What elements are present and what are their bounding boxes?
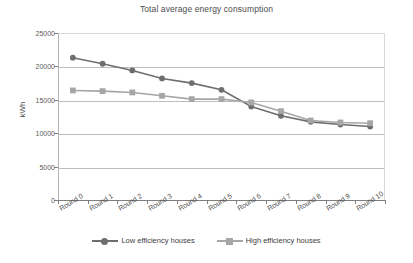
- legend-item[interactable]: High efficiency houses: [217, 236, 321, 245]
- legend-item[interactable]: Low efficiency houses: [92, 236, 194, 245]
- y-axis-tick-label: 20000: [3, 63, 55, 70]
- chart-legend: Low efficiency housesHigh efficiency hou…: [0, 236, 413, 245]
- legend-label: Low efficiency houses: [121, 236, 194, 245]
- x-axis-tick-mark: [326, 200, 327, 204]
- plot-area: [58, 33, 385, 200]
- x-axis-tick-mark: [385, 200, 386, 204]
- x-axis-tick-mark: [355, 200, 356, 204]
- legend-swatch: [217, 237, 243, 245]
- x-axis-tick-mark: [207, 200, 208, 204]
- y-axis-tick-label: 25000: [3, 30, 55, 37]
- x-axis-tick-mark: [58, 200, 59, 204]
- legend-marker-square-icon: [226, 238, 233, 245]
- x-axis-tick-mark: [296, 200, 297, 204]
- x-axis-tick-mark: [147, 200, 148, 204]
- x-axis-tick-mark: [177, 200, 178, 204]
- gridline: [59, 101, 384, 102]
- y-axis-tick-label: 10000: [3, 130, 55, 137]
- y-axis-tick-label: 0: [3, 197, 55, 204]
- legend-swatch: [92, 237, 118, 245]
- chart-title: Total average energy consumption: [0, 4, 413, 14]
- chart-container: Total average energy consumption kWh 050…: [0, 0, 413, 263]
- gridline: [59, 67, 384, 68]
- y-axis-tick-label: 15000: [3, 96, 55, 103]
- legend-label: High efficiency houses: [246, 236, 321, 245]
- x-axis-tick-mark: [236, 200, 237, 204]
- x-axis-tick-mark: [117, 200, 118, 204]
- legend-marker-circle-icon: [101, 238, 108, 245]
- x-axis-tick-mark: [266, 200, 267, 204]
- gridline: [59, 168, 384, 169]
- y-axis-ticks: 0500010000150002000025000: [0, 0, 55, 263]
- x-axis-tick-mark: [88, 200, 89, 204]
- y-axis-tick-label: 5000: [3, 163, 55, 170]
- gridline: [59, 134, 384, 135]
